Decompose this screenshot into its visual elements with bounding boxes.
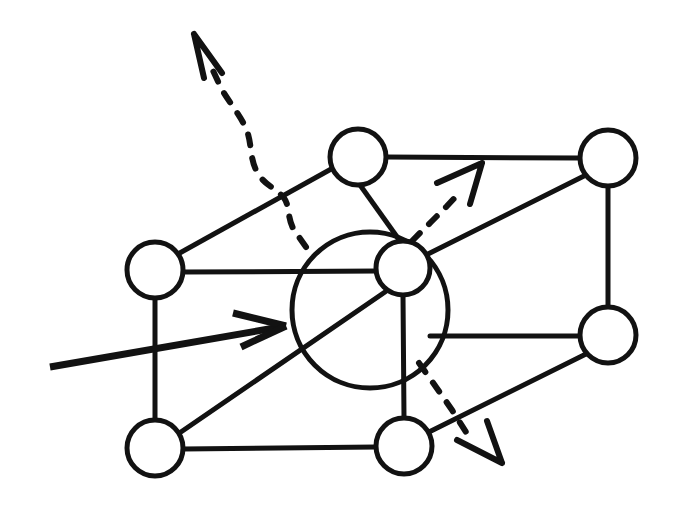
node-top-right: [580, 130, 636, 186]
bond-top-middle-to-top-right: [386, 157, 580, 158]
node-left-middle: [127, 242, 183, 298]
node-right-middle: [580, 307, 636, 363]
figure-background: [0, 0, 676, 508]
lattice-diagram-canvas: [0, 0, 676, 508]
bond-center-to-bottom-middle: [403, 295, 404, 418]
bond-left-middle-to-center: [183, 271, 378, 272]
bond-bottom-left-to-bottom-middle: [183, 447, 376, 449]
lattice-scattering-figure: [0, 0, 676, 508]
node-top-middle: [330, 129, 386, 185]
node-bottom-middle: [376, 418, 432, 474]
node-center-small: [376, 241, 430, 295]
node-bottom-left: [127, 420, 183, 476]
